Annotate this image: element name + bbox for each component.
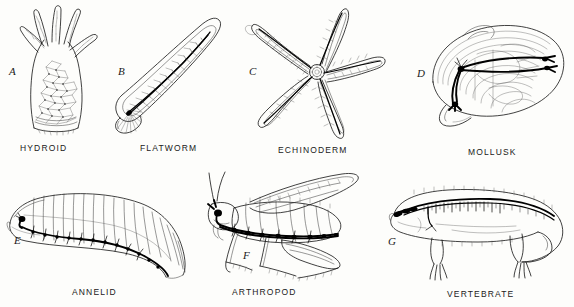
panel-letter-e: E xyxy=(14,235,21,246)
panel-letter-g: G xyxy=(388,236,396,247)
panel-letter-b: B xyxy=(118,66,125,77)
panel-annelid: E xyxy=(0,175,210,285)
caption-echinoderm: ECHINODERM xyxy=(278,146,348,155)
panel-letter-c: C xyxy=(249,66,256,77)
panel-echinoderm: C xyxy=(240,0,390,160)
caption-flatworm: FLATWORM xyxy=(140,144,197,153)
grasshopper-ventral-nerve-cord-drawing xyxy=(190,168,370,286)
panel-vertebrate: G xyxy=(378,178,574,288)
panel-arthropod: F xyxy=(190,168,370,288)
clam-ganglia-drawing xyxy=(405,10,574,145)
caption-annelid: ANNELID xyxy=(72,288,117,297)
caption-mollusk: MOLLUSK xyxy=(468,148,517,157)
panel-flatworm: B xyxy=(100,0,250,160)
caption-arthropod: ARTHROPOD xyxy=(232,288,297,297)
caption-vertebrate: VERTEBRATE xyxy=(447,290,514,299)
panel-letter-a: A xyxy=(9,66,16,77)
starfish-radial-nerve-drawing xyxy=(240,0,390,145)
panel-letter-f: F xyxy=(243,250,250,261)
caption-hydroid: HYDROID xyxy=(20,144,67,153)
earthworm-ventral-nerve-cord-drawing xyxy=(0,175,210,280)
salamander-dorsal-spinal-cord-drawing xyxy=(378,178,574,283)
comparative-nervous-systems-figure: A HYDROID xyxy=(0,0,574,307)
panel-letter-d: D xyxy=(417,68,425,79)
panel-mollusk: D xyxy=(405,10,574,160)
